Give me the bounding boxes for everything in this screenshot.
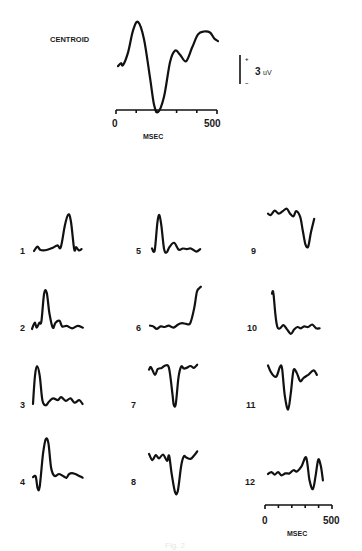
component-waveform-2	[32, 290, 83, 329]
waveform-number-label: 4	[20, 477, 25, 487]
centroid-label: CENTROID	[50, 35, 90, 44]
waveform-number-label: 5	[136, 246, 141, 256]
waveform-number-label: 9	[251, 246, 256, 256]
top-time-axis	[116, 110, 217, 114]
waveform-number-label: 7	[131, 400, 136, 410]
waveform-number-label: 11	[246, 400, 256, 410]
component-waveform-5	[152, 215, 200, 253]
scale-unit: uV	[263, 69, 272, 76]
component-waveforms: 123456789101112	[20, 209, 323, 495]
scale-plus: +	[245, 56, 249, 62]
component-waveform-3	[33, 366, 83, 405]
component-waveform-9	[268, 209, 314, 248]
waveform-number-label: 3	[20, 400, 25, 410]
component-waveform-8	[149, 451, 197, 494]
waveform-number-label: 8	[131, 477, 136, 487]
top-axis-end-label: 500	[204, 118, 221, 129]
component-waveform-10	[272, 291, 320, 334]
top-axis-label: MSEC	[143, 133, 163, 140]
component-waveform-11	[268, 365, 317, 409]
bottom-axis-end-label: 500	[323, 515, 340, 526]
top-axis-start-label: 0	[112, 118, 118, 129]
component-waveform-7	[149, 365, 197, 407]
component-waveform-6	[150, 287, 201, 329]
centroid-waveform	[118, 22, 218, 113]
waveform-number-label: 12	[245, 477, 255, 487]
component-waveform-4	[33, 438, 83, 490]
waveform-number-label: 2	[20, 323, 25, 333]
bottom-axis-label: MSEC	[287, 530, 307, 537]
waveform-number-label: 1	[20, 246, 25, 256]
waveform-number-label: 6	[136, 323, 141, 333]
bottom-time-axis	[265, 505, 332, 509]
scale-value: 3	[255, 66, 261, 77]
scale-minus: –	[245, 80, 249, 86]
figure-caption: Fig. 2	[165, 541, 186, 550]
erp-figure: CENTROID + – 3 uV 0 500 MSEC 12345678910…	[0, 0, 362, 551]
bottom-axis-start-label: 0	[262, 515, 268, 526]
component-waveform-1	[34, 214, 82, 251]
waveform-number-label: 10	[247, 323, 257, 333]
component-waveform-12	[268, 457, 323, 489]
